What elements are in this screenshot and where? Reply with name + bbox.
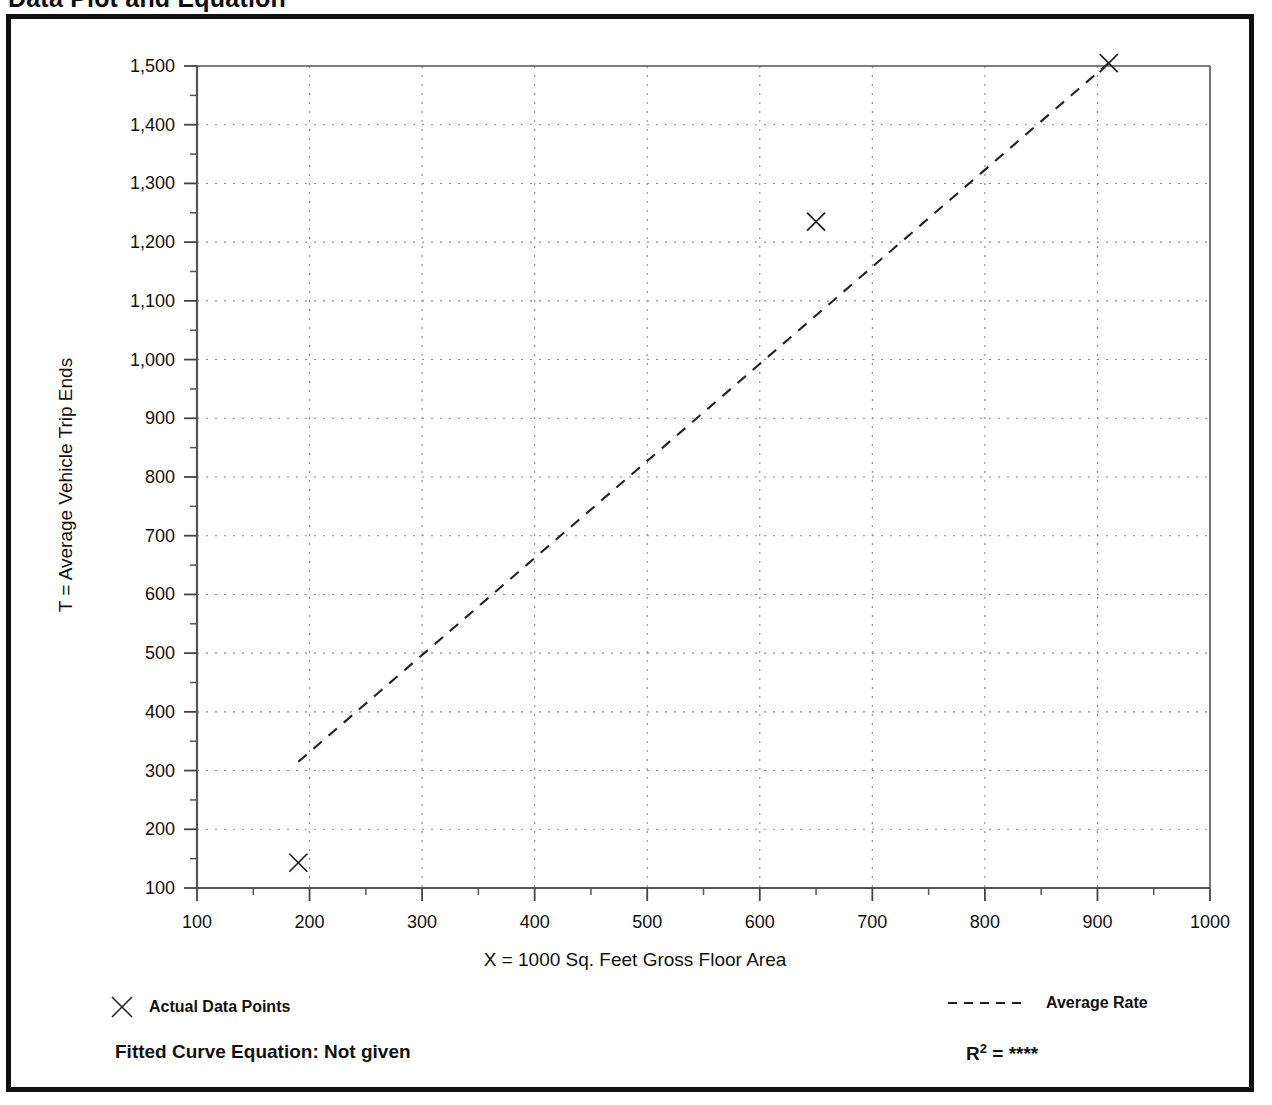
svg-text:700: 700	[145, 526, 175, 546]
legend-entry-actual-data-points: Actual Data Points	[109, 994, 290, 1020]
r-squared-equals: =	[987, 1043, 1009, 1064]
svg-text:700: 700	[857, 912, 887, 932]
svg-text:1,000: 1,000	[130, 350, 175, 370]
svg-text:600: 600	[145, 584, 175, 604]
svg-text:500: 500	[632, 912, 662, 932]
svg-text:1000: 1000	[1190, 912, 1230, 932]
svg-text:600: 600	[745, 912, 775, 932]
svg-text:500: 500	[145, 643, 175, 663]
svg-text:100: 100	[145, 878, 175, 898]
legend-label-actual-data-points: Actual Data Points	[149, 998, 290, 1016]
chart-frame: 1002003004005006007008009001,0001,1001,2…	[6, 14, 1254, 1092]
y-axis-title: T = Average Vehicle Trip Ends	[55, 335, 77, 635]
r-squared-symbol: R	[966, 1043, 980, 1064]
r-squared-exponent: 2	[980, 1041, 987, 1056]
chart-area: 1002003004005006007008009001,0001,1001,2…	[11, 19, 1259, 1097]
data-point-marker	[289, 854, 307, 872]
x-marker-icon	[109, 994, 135, 1020]
svg-text:1,400: 1,400	[130, 115, 175, 135]
svg-text:300: 300	[407, 912, 437, 932]
scatter-plot-svg: 1002003004005006007008009001,0001,1001,2…	[11, 19, 1259, 1097]
svg-text:1,100: 1,100	[130, 291, 175, 311]
chart-legend: Actual Data Points Average Rate	[11, 994, 1259, 1028]
svg-text:200: 200	[145, 819, 175, 839]
svg-text:1,300: 1,300	[130, 173, 175, 193]
svg-text:100: 100	[182, 912, 212, 932]
svg-text:400: 400	[145, 702, 175, 722]
svg-text:400: 400	[520, 912, 550, 932]
svg-text:800: 800	[145, 467, 175, 487]
fitted-curve-equation: Fitted Curve Equation: Not given	[115, 1041, 411, 1063]
r-squared-stars: ****	[1009, 1043, 1039, 1064]
svg-text:800: 800	[970, 912, 1000, 932]
svg-text:200: 200	[295, 912, 325, 932]
svg-text:900: 900	[145, 408, 175, 428]
svg-text:1,500: 1,500	[130, 56, 175, 76]
dashed-line-icon	[946, 996, 1030, 1010]
svg-text:1,200: 1,200	[130, 232, 175, 252]
svg-text:900: 900	[1082, 912, 1112, 932]
legend-label-average-rate: Average Rate	[1046, 994, 1148, 1012]
data-point-marker	[807, 213, 825, 231]
x-axis-title: X = 1000 Sq. Feet Gross Floor Area	[11, 949, 1259, 971]
svg-text:300: 300	[145, 761, 175, 781]
equation-row: Fitted Curve Equation: Not given R2 = **…	[11, 1041, 1259, 1081]
legend-entry-average-rate: Average Rate	[946, 994, 1148, 1012]
r-squared-value: R2 = ****	[966, 1041, 1038, 1065]
page-title: Data Plot and Equation	[8, 0, 286, 13]
